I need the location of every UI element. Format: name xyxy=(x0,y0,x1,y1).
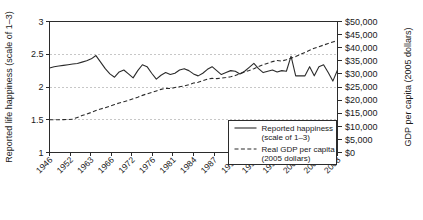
x-axis-tick-label: 1976 xyxy=(137,155,158,176)
y2-axis-tick-label: $30,000 xyxy=(345,69,378,79)
y-axis-tick-label: 2.5 xyxy=(31,49,44,59)
y2-axis-tick-label: $45,000 xyxy=(345,30,378,40)
y2-axis-tick-label: $25,000 xyxy=(345,82,378,92)
x-axis-tick-label: 1963 xyxy=(75,155,96,176)
x-axis-tick-label: 1972 xyxy=(116,155,137,176)
y-axis-tick-label: 3 xyxy=(38,17,43,27)
x-axis-tick-label: 1981 xyxy=(157,155,178,176)
x-axis-tick-label: 1984 xyxy=(178,155,199,176)
y-axis-tick-label: 2 xyxy=(38,82,43,92)
y2-axis-tick-label: $5,000 xyxy=(345,135,373,145)
y2-axis-tick-label: $40,000 xyxy=(345,43,378,53)
legend-sublabel-real-gdp-per-capita: (2005 dollars) xyxy=(262,154,311,163)
dual-axis-line-chart: 11.522.53 $0$5,000$10,000$15,000$20,000$… xyxy=(0,0,423,220)
legend-label-real-gdp-per-capita: Real GDP per capita xyxy=(262,145,336,154)
grid-lines xyxy=(50,54,338,120)
y2-axis-tick-label: $20,000 xyxy=(345,95,378,105)
y2-axis-tick-label: $0 xyxy=(345,148,355,158)
legend-sublabel-reported-happiness: (scale of 1–3) xyxy=(262,133,311,142)
y-axis-left-ticks: 11.522.53 xyxy=(31,17,50,158)
y2-axis-tick-label: $10,000 xyxy=(345,122,378,132)
x-axis-tick-label: 1966 xyxy=(96,155,117,176)
y2-axis-tick-label: $15,000 xyxy=(345,108,378,118)
data-series-group xyxy=(50,41,338,120)
chart-legend: Reported happiness(scale of 1–3)Real GDP… xyxy=(229,121,337,165)
y-axis-title: Reported life happiness (scale of 1–3) xyxy=(4,11,14,163)
x-axis-tick-label: 1987 xyxy=(199,155,220,176)
y2-axis-tick-label: $35,000 xyxy=(345,56,378,66)
y-axis-tick-label: 1.5 xyxy=(31,115,44,125)
legend-label-reported-happiness: Reported happiness xyxy=(262,124,334,133)
reported-happiness-line xyxy=(50,56,338,82)
chart-container: 11.522.53 $0$5,000$10,000$15,000$20,000$… xyxy=(0,0,423,220)
y2-axis-title: GDP per capita (2005 dollars) xyxy=(403,28,413,147)
y-axis-tick-label: 1 xyxy=(38,148,43,158)
x-axis-tick-label: 1952 xyxy=(55,155,76,176)
y2-axis-tick-label: $50,000 xyxy=(345,17,378,27)
gdp-per-capita-line xyxy=(50,41,338,120)
x-axis-tick-label: 1946 xyxy=(34,155,55,176)
y-axis-right-ticks: $0$5,000$10,000$15,000$20,000$25,000$30,… xyxy=(338,17,378,158)
